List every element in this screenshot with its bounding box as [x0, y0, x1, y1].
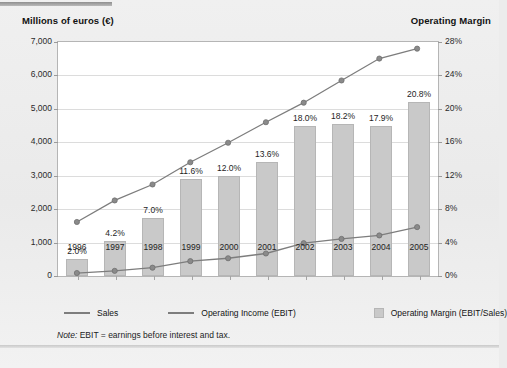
x-axis-tick-label: 1998: [144, 242, 163, 252]
data-point-marker: [188, 160, 193, 165]
bar-swatch-icon: [374, 308, 384, 318]
y2-axis-tick-label: 20%: [438, 103, 462, 113]
y2-axis-tick-mark: [438, 75, 442, 76]
top-rule-decoration: [0, 2, 112, 6]
y2-axis-tick-label: 0%: [438, 270, 457, 280]
y2-axis-tick-label: 24%: [438, 69, 462, 79]
data-point-marker: [263, 120, 268, 125]
line-sales: [77, 49, 417, 222]
y-axis-tick-mark: [54, 42, 58, 43]
line-ebit: [77, 227, 417, 273]
y-axis-tick-label: 2,000: [31, 203, 58, 213]
chart-note: Note: EBIT = earnings before interest an…: [57, 330, 230, 340]
data-point-marker: [339, 78, 344, 83]
bottom-rule-decoration: [0, 345, 499, 348]
y-axis-tick-label: 7,000: [31, 36, 58, 46]
y-axis-tick-mark: [54, 176, 58, 177]
x-axis-tick-mark: [344, 276, 345, 280]
x-axis-tick-mark: [78, 276, 79, 280]
chart-legend: Sales Operating Income (EBIT) Operating …: [0, 308, 499, 318]
x-axis-tick-label: 1996: [68, 242, 87, 252]
x-axis-tick-mark: [268, 276, 269, 280]
data-point-marker: [415, 46, 420, 51]
y-axis-tick-label: 6,000: [31, 69, 58, 79]
line-swatch-icon: [64, 312, 90, 314]
y2-axis-tick-mark: [438, 142, 442, 143]
x-axis-tick-mark: [306, 276, 307, 280]
legend-item-sales: Sales: [64, 308, 118, 318]
data-point-marker: [150, 182, 155, 187]
legend-label-sales: Sales: [97, 308, 118, 318]
y-axis-tick-mark: [54, 209, 58, 210]
y2-axis-tick-label: 12%: [438, 170, 462, 180]
y2-axis-tick-mark: [438, 176, 442, 177]
data-point-marker: [74, 270, 79, 275]
legend-item-margin: Operating Margin (EBIT/Sales): [374, 308, 507, 318]
y2-axis-tick-label: 16%: [438, 136, 462, 146]
x-axis-tick-mark: [154, 276, 155, 280]
y2-axis-tick-mark: [438, 109, 442, 110]
x-axis-tick-label: 1997: [106, 242, 125, 252]
data-point-marker: [226, 140, 231, 145]
note-prefix: Note:: [57, 330, 77, 340]
data-point-marker: [415, 225, 420, 230]
x-axis-tick-mark: [192, 276, 193, 280]
data-point-marker: [301, 100, 306, 105]
y-axis-tick-label: 3,000: [31, 170, 58, 180]
y-axis-tick-label: 5,000: [31, 103, 58, 113]
data-point-marker: [377, 233, 382, 238]
data-point-marker: [150, 265, 155, 270]
y-axis-tick-label: 0: [47, 270, 58, 280]
y2-axis-tick-mark: [438, 42, 442, 43]
y-axis-tick-mark: [54, 75, 58, 76]
left-axis-title: Millions of euros (€): [22, 15, 114, 26]
legend-item-ebit: Operating Income (EBIT): [168, 308, 295, 318]
y2-axis-tick-mark: [438, 276, 442, 277]
lines-layer: [58, 42, 438, 276]
note-text: EBIT = earnings before interest and tax.: [80, 330, 230, 340]
y-axis-tick-label: 1,000: [31, 237, 58, 247]
x-axis-tick-mark: [420, 276, 421, 280]
x-axis-tick-mark: [230, 276, 231, 280]
data-point-marker: [112, 198, 117, 203]
x-axis-tick-label: 2005: [410, 242, 429, 252]
y2-axis-tick-label: 8%: [438, 203, 457, 213]
data-point-marker: [339, 236, 344, 241]
x-axis-tick-label: 2001: [258, 242, 277, 252]
legend-label-ebit: Operating Income (EBIT): [201, 308, 295, 318]
x-axis-tick-mark: [116, 276, 117, 280]
y2-axis-tick-label: 28%: [438, 36, 462, 46]
data-point-marker: [377, 56, 382, 61]
line-swatch-icon: [168, 312, 194, 314]
data-point-marker: [74, 219, 79, 224]
y-axis-tick-label: 4,000: [31, 136, 58, 146]
x-axis-tick-label: 1999: [182, 242, 201, 252]
data-point-marker: [112, 268, 117, 273]
y2-axis-tick-mark: [438, 209, 442, 210]
y-axis-tick-mark: [54, 109, 58, 110]
right-axis-title: Operating Margin: [411, 15, 491, 26]
y2-axis-tick-mark: [438, 243, 442, 244]
x-axis-tick-label: 2000: [220, 242, 239, 252]
legend-label-margin: Operating Margin (EBIT/Sales): [391, 308, 507, 318]
y-axis-tick-mark: [54, 276, 58, 277]
x-axis-tick-mark: [382, 276, 383, 280]
data-point-marker: [226, 256, 231, 261]
x-axis-tick-label: 2004: [372, 242, 391, 252]
y-axis-tick-mark: [54, 243, 58, 244]
y-axis-tick-mark: [54, 142, 58, 143]
x-axis-tick-label: 2003: [334, 242, 353, 252]
y2-axis-tick-label: 4%: [438, 237, 457, 247]
data-point-marker: [188, 259, 193, 264]
x-axis-tick-label: 2002: [296, 242, 315, 252]
